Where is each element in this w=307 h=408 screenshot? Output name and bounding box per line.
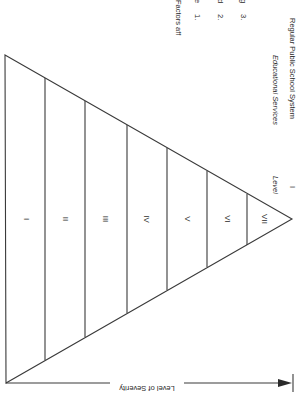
level-label-3: III (101, 216, 110, 223)
services-header: Educational Services (271, 55, 280, 125)
level-header: Level (271, 176, 280, 194)
factor-2-text: Ed (216, 0, 225, 3)
factor-3-text: Ag (239, 0, 248, 3)
factor-2-number: 2. (216, 14, 225, 20)
level-value: I (288, 186, 297, 188)
factor-1-number: 1. (193, 14, 202, 20)
level-label-2: II (61, 217, 70, 221)
arrow-head-icon (278, 379, 292, 387)
level-label-5: V (183, 216, 192, 222)
factors-heading: Factors aff (174, 0, 183, 36)
services-value: Regular Public School System (288, 18, 297, 119)
level-label-7: VII (260, 214, 269, 224)
level-label-1: I (22, 218, 31, 220)
factor-3-number: 3. (239, 14, 248, 20)
severity-axis-label: Level of Severity (119, 384, 175, 393)
factor-1-text: Se (193, 0, 202, 3)
severity-triangle-diagram: I II III IV V VI VII Level of Severity E… (0, 0, 307, 408)
level-label-6: VI (223, 215, 232, 223)
level-label-4: IV (142, 215, 151, 223)
